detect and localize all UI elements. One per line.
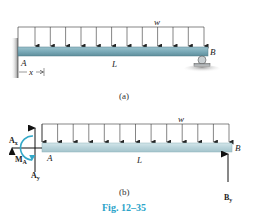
figure-caption: Fig. 12–35 <box>102 202 146 213</box>
end-label-b-right: B <box>210 47 216 57</box>
beam-b <box>42 143 232 152</box>
reaction-by-label: By <box>224 193 232 203</box>
reaction-ma-label: MA <box>15 155 28 165</box>
dimension-label-x: x <box>28 67 33 77</box>
roller-support <box>184 56 220 73</box>
panel-b: w Ax MA Ay A B L By (b) <box>9 114 241 203</box>
reaction-ax-label: Ax <box>9 136 18 146</box>
load-label-b: w <box>178 114 184 124</box>
load-arrows-a <box>35 27 204 46</box>
end-label-a-left-b: A <box>46 153 53 163</box>
end-label-b-right-b: B <box>235 143 241 153</box>
end-label-a-left: A <box>20 58 27 68</box>
panel-label-a: (a) <box>119 91 129 101</box>
load-label-a: w <box>154 17 160 27</box>
load-arrows-b <box>42 124 229 142</box>
beam-diagram: w A B L x (a) <box>0 0 253 221</box>
fixed-wall-support <box>11 38 18 78</box>
panel-label-b: (b) <box>119 187 130 197</box>
panel-a: w A B L x (a) <box>11 17 220 101</box>
reaction-ay-label: Ay <box>31 171 40 181</box>
beam-a <box>18 47 208 56</box>
span-label-a: L <box>111 59 117 69</box>
span-label-b: L <box>136 155 142 165</box>
